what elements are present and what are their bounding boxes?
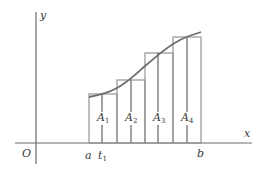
area-3-base: A	[153, 111, 161, 124]
diagram-graphics	[0, 0, 264, 169]
riemann-sum-diagram: y x O a t1 b A1 A2 A3 A4	[0, 0, 264, 169]
area-label-2: A2	[124, 112, 138, 125]
area-4-base: A	[181, 111, 189, 124]
interval-end-label: b	[197, 148, 204, 159]
origin-label: O	[22, 148, 31, 159]
area-4-subscript: 4	[189, 117, 193, 125]
t1-label: t1	[98, 150, 107, 163]
area-1-subscript: 1	[105, 117, 109, 125]
area-1-base: A	[97, 111, 105, 124]
rectangle-4-left	[173, 37, 187, 143]
rectangle-4-right	[187, 37, 201, 143]
rectangle-3-right	[158, 53, 173, 143]
interval-start-label: a	[85, 150, 92, 161]
area-label-1: A1	[96, 112, 110, 125]
y-axis-label: y	[40, 10, 46, 21]
x-axis-label: x	[244, 128, 250, 139]
area-3-subscript: 3	[161, 117, 165, 125]
t1-subscript: 1	[102, 155, 106, 163]
rectangle-3-left	[145, 53, 158, 143]
area-label-4: A4	[180, 112, 194, 125]
area-label-3: A3	[152, 112, 166, 125]
area-2-subscript: 2	[133, 117, 137, 125]
area-2-base: A	[125, 111, 133, 124]
